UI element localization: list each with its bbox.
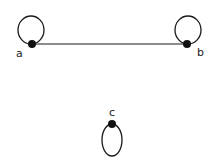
node-a: [28, 40, 36, 48]
node-label-a: a: [16, 47, 23, 60]
node-label-c: c: [109, 106, 115, 119]
self-loop-c: [102, 124, 122, 156]
self-loop-a: [18, 16, 44, 44]
node-b: [183, 40, 191, 48]
self-loop-b: [175, 16, 201, 44]
loops-group: [18, 16, 201, 156]
graph-diagram: abc: [0, 0, 215, 162]
labels-group: abc: [16, 46, 204, 119]
node-c: [108, 120, 116, 128]
graph-svg: abc: [0, 0, 215, 162]
node-label-b: b: [197, 46, 204, 59]
